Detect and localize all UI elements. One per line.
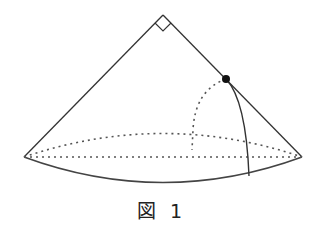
left-slant-edge <box>24 15 163 157</box>
visible-curve <box>226 79 249 176</box>
cone-diagram <box>0 0 323 227</box>
hidden-arc <box>192 79 226 150</box>
right-slant-edge <box>163 15 302 157</box>
figure-caption: 図 1 <box>0 196 323 223</box>
marked-point <box>222 75 230 83</box>
base-back-arc <box>24 134 302 158</box>
base-front-arc <box>24 157 302 183</box>
right-angle-marker <box>155 23 171 31</box>
